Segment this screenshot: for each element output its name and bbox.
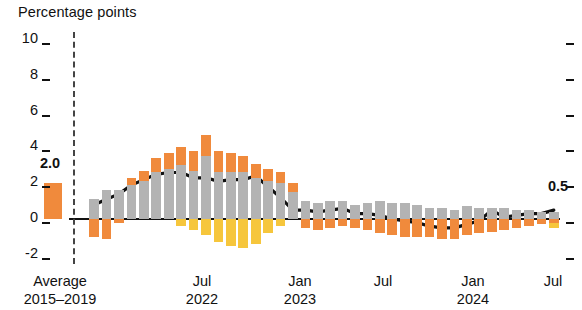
right-tick-mark [566, 258, 574, 260]
bar-segment-orange [387, 219, 397, 235]
bar-segment-orange [437, 219, 447, 239]
y-tick-mark [42, 258, 50, 260]
bar-segment-yellow [238, 219, 248, 248]
bar-segment-orange [176, 147, 186, 165]
right-tick-mark [566, 222, 574, 224]
bar-segment-orange [524, 219, 534, 226]
y-tick-label: -2 [8, 245, 38, 261]
bar-segment-orange [151, 158, 161, 172]
bar-segment-orange [400, 219, 410, 237]
right-tick-mark [566, 150, 574, 152]
bar-segment-orange [338, 219, 348, 226]
bar-segment-yellow [176, 219, 186, 226]
bar-segment-orange [375, 219, 385, 233]
x-axis-label-line2: 2015–2019 [10, 290, 110, 308]
bar-segment-orange [263, 169, 273, 182]
right-tick-mark [566, 43, 574, 45]
bar-segment-orange [313, 219, 323, 230]
y-tick-label: 2 [8, 173, 38, 189]
bar-segment-gray [487, 208, 497, 219]
bar-segment-gray [338, 201, 348, 219]
bar-segment-yellow [263, 219, 273, 233]
bar-segment-gray [363, 203, 373, 219]
bar-segment-gray [226, 172, 236, 219]
bar-segment-gray [89, 199, 99, 219]
bar-segment-gray [276, 183, 286, 219]
y-tick-label: 4 [8, 137, 38, 153]
bar-segment-gray [176, 165, 186, 219]
chart-svg-layer [0, 0, 582, 310]
x-axis-label: Jul2022 [152, 272, 252, 308]
bar-segment-gray [139, 181, 149, 219]
bar-segment-gray [151, 172, 161, 219]
right-tick-mark [566, 115, 574, 117]
bar-segment-orange [325, 219, 335, 228]
bar-segment-orange [288, 183, 298, 192]
x-axis-label-line1: Jul [333, 272, 433, 290]
bar-segment-gray [462, 206, 472, 219]
bar-segment-orange [350, 219, 360, 228]
bar-segment-orange [425, 219, 435, 237]
bar-segment-orange [301, 219, 311, 228]
bar-segment-gray [263, 181, 273, 219]
bar-segment-orange [276, 172, 286, 183]
y-tick-mark [42, 115, 50, 117]
average-period-divider [73, 32, 75, 264]
y-tick-label: 0 [8, 209, 38, 225]
bar-segment-gray [214, 172, 224, 219]
bar-segment-orange [487, 219, 497, 232]
bar-segment-gray [375, 201, 385, 219]
bar-segment-gray [537, 212, 547, 219]
x-axis-label-line1: Jul [503, 272, 582, 290]
y-tick-mark [42, 222, 50, 224]
x-axis-label-line1: Jul [152, 272, 252, 290]
bar-segment-yellow [226, 219, 236, 246]
bar-segment-orange [201, 135, 211, 156]
bar-segment-yellow [549, 223, 559, 228]
x-axis-label-line2: 2024 [423, 290, 523, 308]
bar-segment-gray [251, 178, 261, 219]
bar-segment-gray [301, 201, 311, 219]
bar-segment-orange [537, 219, 547, 224]
value-annotation: 2.0 [40, 155, 60, 171]
chart-container: Percentage points 1086420-2 Average2015–… [0, 0, 582, 310]
y-tick-label: 6 [8, 102, 38, 118]
bar-segment-gray [189, 171, 199, 219]
bar-segment-yellow [276, 219, 286, 226]
bar-segment-gray [400, 203, 410, 219]
y-tick-label: 8 [8, 66, 38, 82]
right-tick-mark [566, 79, 574, 81]
y-tick-mark [42, 79, 50, 81]
y-tick-mark [42, 186, 50, 188]
bar-segment-gray [387, 203, 397, 219]
bar-segment-orange [214, 151, 224, 172]
bar-segment-gray [201, 156, 211, 219]
x-axis-label-line2: 2022 [152, 290, 252, 308]
bar-segment-gray [450, 210, 460, 219]
bar-segment-orange [450, 219, 460, 239]
average-bar-orange [44, 183, 62, 219]
bar-segment-gray [238, 172, 248, 219]
bar-segment-gray [127, 185, 137, 219]
bar-segment-gray [350, 205, 360, 219]
bar-segment-orange [139, 171, 149, 182]
bar-segment-orange [127, 178, 137, 185]
bar-segment-gray [549, 212, 559, 219]
bar-segment-orange [499, 219, 509, 230]
bar-segment-orange [238, 156, 248, 172]
bar-segment-gray [524, 210, 534, 219]
bar-segment-gray [114, 190, 124, 219]
bar-segment-orange [251, 164, 261, 178]
bar-segment-yellow [201, 219, 211, 235]
bar-segment-gray [437, 208, 447, 219]
bar-segment-gray [512, 210, 522, 219]
y-tick-label: 10 [8, 30, 38, 46]
x-axis-label: Average2015–2019 [10, 272, 110, 308]
bar-segment-gray [102, 190, 112, 219]
y-tick-mark [42, 43, 50, 45]
bar-segment-gray [313, 203, 323, 219]
bar-segment-orange [189, 151, 199, 171]
bar-segment-yellow [189, 219, 199, 230]
bar-segment-gray [288, 192, 298, 219]
bar-segment-gray [425, 208, 435, 219]
